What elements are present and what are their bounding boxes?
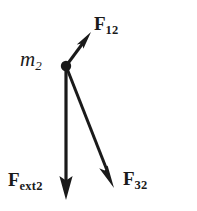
vector-f32-arrowhead — [99, 166, 114, 188]
vector-label-f12-symbol: F — [94, 13, 106, 34]
vector-label-f12-subscript: 12 — [106, 23, 119, 37]
vector-label-f12: F12 — [94, 14, 119, 36]
vector-label-fext2: Fext2 — [8, 170, 43, 192]
vector-label-fext2-subscript: ext2 — [20, 179, 43, 193]
vector-f32 — [66, 66, 114, 188]
mass-label-m2: m2 — [20, 49, 42, 72]
vector-f32-shaft — [66, 66, 107, 169]
vector-label-fext2-symbol: F — [8, 169, 20, 190]
free-body-diagram-figure: m2 F12 F32 Fext2 — [0, 0, 197, 211]
vector-fext2 — [59, 66, 72, 200]
page-scan-artifact — [0, 200, 197, 211]
vector-label-f32-symbol: F — [123, 168, 135, 189]
vector-f12 — [66, 32, 91, 66]
vector-label-f32-subscript: 32 — [135, 178, 148, 192]
vector-label-f32: F32 — [123, 169, 148, 191]
mass-label-m2-subscript: 2 — [35, 58, 42, 73]
mass-point-node — [61, 61, 71, 71]
mass-label-m2-symbol: m — [20, 47, 35, 71]
